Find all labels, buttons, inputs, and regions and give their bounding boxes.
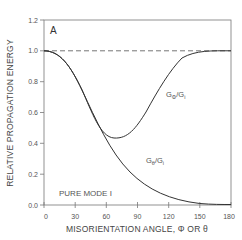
y-tick-label: 0.2 [28,171,38,178]
y-tick-label: 0.6 [28,109,38,116]
chart-root: 0.0 0.2 0.4 0.6 0.8 1.0 1.2 0 30 60 90 1… [0,0,242,240]
annotation-pure-mode: PURE MODE I [59,189,112,198]
x-tick-label: 30 [71,213,79,220]
y-tick-label: 0.8 [28,78,38,85]
series-label-g-phi: GΦ/Gi [166,90,185,100]
x-tick-label: 90 [134,213,142,220]
panel-label: A [50,25,57,36]
series-g-phi-curve [44,51,231,138]
y-axis-label: RELATIVE PROPAGATION ENERGY [5,39,15,187]
series-label-g-theta: Gθ/Gi [146,156,164,166]
y-tick-label: 1.2 [28,17,38,24]
x-tick-label: 150 [194,213,206,220]
plot-frame [44,20,231,205]
x-tick-label: 180 [223,213,235,220]
series-g-theta-curve [44,51,231,205]
x-tick-label: 120 [163,213,175,220]
y-tick-label: 0.0 [28,202,38,209]
y-tick-label: 0.4 [28,140,38,147]
x-axis-label: MISORIENTATION ANGLE, Φ OR θ [66,224,208,234]
x-tick-label: 60 [102,213,110,220]
y-axis [40,20,44,205]
x-tick-label: 0 [44,213,48,220]
y-tick-label: 1.0 [28,47,38,54]
